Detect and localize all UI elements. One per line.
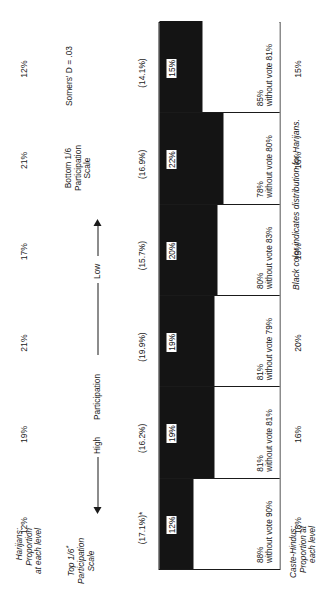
harijans-segment-label: 20% <box>166 242 176 261</box>
harijans-segment <box>159 479 195 569</box>
scale-bottom-caption: Bottom 1/6 Participation Scale <box>63 122 92 214</box>
harijans-proportion-value: 12% <box>18 60 28 77</box>
scale-bottom-line3: Scale <box>82 122 92 214</box>
chart-canvas: Harijans: Proportion at each level 12%19… <box>0 0 319 606</box>
scale-middle-label: Participation <box>92 374 102 420</box>
caste-hindus-segment-pct: 85% <box>255 25 265 106</box>
parenthetical-value: (17.1%)* <box>136 512 146 545</box>
harijans-segment-label: 19% <box>166 424 176 443</box>
scale-bottom-line1: Bottom 1/6 <box>63 122 73 214</box>
caste-hindus-segment-pct: 81% <box>255 390 265 471</box>
caste-hindus-segment-note: without vote 80% <box>264 116 274 197</box>
scale-arrow-low-icon <box>93 219 101 226</box>
caste-hindus-axis-title: Caste-Hindus: Proportion at each level <box>288 526 317 600</box>
caste-hindus-segment-label: 78%without vote 80% <box>255 116 274 197</box>
parenthetical-value: (14.1%) <box>136 58 146 87</box>
caste-hindus-segment-pct: 80% <box>255 208 265 289</box>
harijans-proportion-value: 21% <box>18 152 28 169</box>
harijans-proportion-value: 12% <box>18 517 28 534</box>
parenthetical-value: (16.2%) <box>136 424 146 453</box>
bar-column: 12%88%without vote 90% <box>159 478 279 569</box>
caste-hindus-segment-label: 85%without vote 81% <box>255 25 274 106</box>
scale-top-star: * <box>64 546 71 549</box>
caste-hindus-segment-label: 81%without vote 81% <box>255 390 274 471</box>
bar-column: 15%85%without vote 81% <box>159 21 279 112</box>
parenthetical-value: (16.9%) <box>136 150 146 179</box>
bar-column: 22%78%without vote 80% <box>159 112 279 203</box>
parenthetical-value: (15.7%) <box>136 241 146 270</box>
scale-top-caption: Top 1/6* Participation Scale <box>63 518 96 604</box>
bar-column: 20%80%without vote 83% <box>159 204 279 295</box>
caste-hindus-segment-pct: 81% <box>255 299 265 380</box>
harijans-axis-title-line2: Proportion <box>24 528 34 600</box>
harijans-segment-label: 15% <box>166 59 176 78</box>
caste-hindus-segment-note: without vote 79% <box>264 299 274 380</box>
harijans-segment-label: 12% <box>166 516 176 535</box>
caste-hindus-axis-title-line2: Proportion at <box>298 526 308 600</box>
caste-hindus-segment-note: without vote 90% <box>264 482 274 563</box>
scale-high-label: High <box>92 437 102 454</box>
caste-hindus-segment-note: without vote 81% <box>264 390 274 471</box>
caste-hindus-proportion-value: 16% <box>292 426 302 443</box>
harijans-proportion-value: 21% <box>18 334 28 351</box>
harijans-segment-label: 22% <box>166 150 176 169</box>
scale-top-line1: Top 1/6 <box>66 549 76 577</box>
harijans-segment-label: 19% <box>166 333 176 352</box>
harijans-axis-title: Harijans: Proportion at each level <box>14 528 43 600</box>
caste-hindus-segment-pct: 78% <box>255 116 265 197</box>
figure-footnote: Black color indicates distribution for H… <box>290 119 300 290</box>
stacked-bar-plot: 12%88%without vote 90%19%81%without vote… <box>158 22 280 570</box>
caste-hindus-segment-label: 81%without vote 79% <box>255 299 274 380</box>
caste-hindus-proportion-value: 20% <box>292 334 302 351</box>
scale-arrow-high-icon <box>93 507 101 514</box>
harijans-proportion-value: 17% <box>18 243 28 260</box>
caste-hindus-proportion-value: 18% <box>292 517 302 534</box>
somers-d-statistic: Somers' D = .03 <box>63 46 73 106</box>
caste-hindus-segment-note: without vote 81% <box>264 25 274 106</box>
caste-hindus-segment-note: without vote 83% <box>264 208 274 289</box>
bar-column: 19%81%without vote 81% <box>159 386 279 477</box>
scale-low-label: Low <box>92 264 102 279</box>
scale-line-left <box>97 457 98 507</box>
scale-line-right <box>97 283 98 355</box>
figure-rotation-wrapper: Harijans: Proportion at each level 12%19… <box>0 0 319 606</box>
caste-hindus-axis-title-line1: Caste-Hindus: <box>288 526 298 600</box>
harijans-axis-title-line1: Harijans: <box>14 528 24 600</box>
scale-line-far-right <box>97 226 98 256</box>
caste-hindus-segment-label: 88%without vote 90% <box>255 482 274 563</box>
harijans-proportion-value: 19% <box>18 426 28 443</box>
bar-column: 19%81%without vote 79% <box>159 295 279 386</box>
caste-hindus-axis-title-line3: each level <box>307 526 317 600</box>
caste-hindus-segment-label: 80%without vote 83% <box>255 208 274 289</box>
parenthetical-value: (19.9%) <box>136 332 146 361</box>
caste-hindus-proportion-value: 15% <box>292 60 302 77</box>
scale-top-line3: Scale <box>86 518 96 604</box>
harijans-axis-title-line3: at each level <box>33 528 43 600</box>
caste-hindus-segment-pct: 88% <box>255 482 265 563</box>
